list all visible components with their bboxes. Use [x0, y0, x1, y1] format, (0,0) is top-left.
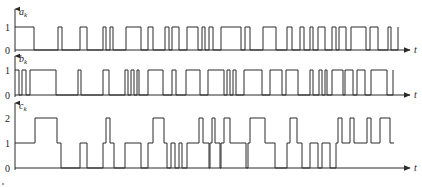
tick-b-1: 1: [5, 65, 10, 76]
waveform-diagram: ak 1 0 t bk 1 0 t ck 2 1 0 t: [0, 0, 422, 187]
corner-dot: [2, 183, 4, 185]
time-label-a: t: [414, 44, 417, 55]
tick-b-0: 0: [5, 90, 10, 101]
label-a-k: ak: [19, 6, 28, 19]
tick-c-2: 2: [5, 113, 10, 124]
tick-c-1: 1: [5, 138, 10, 149]
tick-a-1: 1: [5, 22, 10, 33]
label-c-k: ck: [19, 100, 27, 113]
tick-a-0: 0: [5, 45, 10, 56]
waveform-c-k: [15, 118, 394, 168]
tick-c-0: 0: [5, 163, 10, 174]
label-b-k: bk: [19, 53, 28, 66]
time-label-c: t: [414, 162, 417, 173]
time-label-b: t: [414, 89, 417, 100]
signal-c-k: ck 2 1 0 t: [5, 100, 417, 174]
signal-a-k: ak 1 0 t: [5, 6, 417, 56]
signal-b-k: bk 1 0 t: [5, 53, 417, 101]
waveform-a-k: [15, 27, 398, 50]
waveform-b-k: [15, 70, 393, 95]
